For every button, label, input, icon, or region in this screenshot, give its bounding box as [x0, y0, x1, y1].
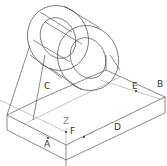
upright-support: [7, 45, 120, 120]
label-z: Z: [63, 116, 69, 126]
label-b: B: [157, 79, 163, 89]
label-e: E: [132, 81, 138, 91]
cylinder-boss: [17, 0, 129, 101]
label-f: F: [70, 126, 75, 136]
base-box: [0, 70, 165, 166]
label-c: C: [44, 81, 50, 91]
label-d: D: [114, 122, 121, 132]
isometric-drawing: A B C D E F Z: [0, 0, 167, 166]
point-d-marker: [83, 136, 85, 138]
point-f: [65, 131, 67, 133]
label-a: A: [44, 139, 51, 149]
